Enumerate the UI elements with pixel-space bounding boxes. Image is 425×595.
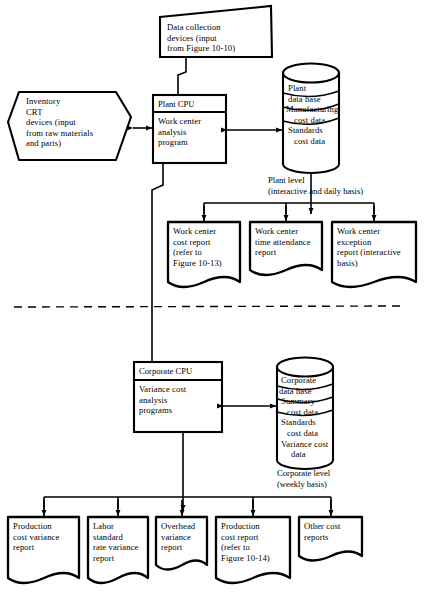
corporate-cpu-line-1: Variance cost [139,384,223,395]
corporate-report-label-1: Production cost variance report [13,521,83,553]
plant-report-1-line-1: Work center [173,226,243,237]
plant-level-line-2: (interactive and daily basis) [268,186,408,197]
corp-report-1-line-1: Production [13,521,83,532]
corporate-level-line-2: (weekly basis) [277,479,387,490]
plant-cpu-line-2: analysis [158,127,228,138]
inventory-crt-line-5: and parts) [26,138,131,149]
inventory-crt-label: Inventory CRT devices (input from raw ma… [26,96,131,149]
corp-report-4-line-2: cost report [221,532,293,543]
plant-level-caption: Plant level (interactive and daily basis… [268,175,408,197]
corp-report-3-line-1: Overhead [161,521,213,532]
plant-cpu-line-1: Work center [158,116,228,127]
plant-report-2-line-1: Work center [255,226,331,237]
plant-report-label-2: Work center time attendance report [255,226,331,258]
corporate-report-label-3: Overhead variance report [161,521,213,553]
corp-report-2-line-1: Labor [93,521,155,532]
plant-report-3-line-2: exception [337,237,423,248]
data-collection-label: Data collection devices (input from Figu… [167,22,271,54]
corporate-db-line-4: cost data [287,407,341,418]
inventory-crt-line-1: Inventory [26,96,131,107]
inventory-crt-line-2: CRT [26,107,131,118]
corporate-database-label: Corporate data base Summary cost data St… [281,375,341,460]
corporate-cpu-header: Corporate CPU [139,366,192,376]
plant-report-label-3: Work center exception report (interactiv… [337,226,423,268]
flowchart-canvas: Data collection devices (input from Figu… [0,0,425,595]
corp-report-3-line-2: variance [161,532,213,543]
corporate-db-line-6: cost data [287,428,341,439]
corp-report-3-line-3: report [161,542,213,553]
corporate-db-line-2: data base [279,386,341,397]
corp-report-2-line-2: standard [93,532,155,543]
corporate-report-label-4: Production cost report (refer to Figure … [221,521,293,563]
plant-db-line-2: data base [288,94,344,105]
corporate-level-line-1: Corporate level [277,468,387,479]
corporate-report-label-2: Labor standard rate variance report [93,521,155,563]
corp-report-5-line-2: reports [304,532,366,543]
plant-db-line-5: Standards [288,125,344,136]
plant-level-line-1: Plant level [268,175,408,186]
connector-layer [0,0,425,595]
inventory-crt-line-4: from raw materials [26,128,131,139]
corporate-cpu-line-2: analysis [139,395,223,406]
plant-report-2-line-3: report [255,247,331,258]
plant-report-2-line-2: time attendance [255,237,331,248]
data-collection-line-3: from Figure 10-10) [167,43,271,54]
corporate-distribution-bar [44,497,331,509]
corp-report-4-line-1: Production [221,521,293,532]
plant-cpu-header: Plant CPU [158,99,195,109]
plant-report-3-line-3: report (interactive [337,247,423,258]
corporate-cpu-body: Variance cost analysis programs [139,384,223,416]
plant-db-line-4: cost data [294,115,344,126]
connector-plantcpu-to-corporatecpu [152,164,163,362]
inventory-crt-line-3: devices (input [26,117,131,128]
corp-report-1-line-3: report [13,542,83,553]
data-collection-line-2: devices (input [167,33,271,44]
corporate-db-line-1: Corporate [281,375,341,386]
corporate-cpu-line-3: programs [139,405,223,416]
corporate-db-line-8: data [291,449,341,460]
corporate-db-line-3: Summary [281,396,341,407]
plant-report-1-line-4: Figure 10-13) [173,258,243,269]
corp-report-4-line-3: (refer to [221,542,293,553]
corporate-level-caption: Corporate level (weekly basis) [277,468,387,490]
corporate-report-label-5: Other cost reports [304,521,366,542]
corp-report-2-line-3: rate variance [93,542,155,553]
corp-report-2-line-4: report [93,553,155,564]
plant-report-1-line-2: cost report [173,237,243,248]
plant-distribution-bar [204,203,374,214]
plant-db-line-6: cost data [294,136,344,147]
corp-report-1-line-2: cost variance [13,532,83,543]
plant-report-label-1: Work center cost report (refer to Figure… [173,226,243,268]
level-divider-dashed [14,306,400,307]
plant-cpu-line-3: program [158,137,228,148]
corp-report-4-line-4: Figure 10-14) [221,553,293,564]
corp-report-5-line-1: Other cost [304,521,366,532]
connector-datacollection-to-plantcpu [178,57,186,95]
data-collection-line-1: Data collection [167,22,271,33]
plant-db-line-1: Plant [288,83,344,94]
plant-database-label: Plant data base Manufacturing cost data … [288,83,344,147]
corporate-db-line-7: Variance cost [281,439,341,450]
plant-cpu-body: Work center analysis program [158,116,228,148]
corporate-db-line-5: Standards [281,417,341,428]
plant-db-line-3: Manufacturing [286,104,344,115]
plant-report-3-line-1: Work center [337,226,423,237]
plant-report-1-line-3: (refer to [173,247,243,258]
plant-report-3-line-4: basis) [337,258,423,269]
